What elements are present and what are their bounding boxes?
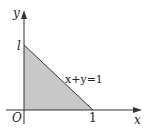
x-intercept-label: 1 bbox=[89, 111, 97, 125]
graph-figure: y x O l 1 x+y=1 bbox=[0, 0, 148, 131]
y-axis-label: y bbox=[12, 6, 20, 20]
y-axis-arrow-icon bbox=[21, 10, 27, 19]
x-axis-label: x bbox=[134, 113, 141, 127]
y-intercept-label: l bbox=[17, 39, 21, 53]
line-equation-label: x+y=1 bbox=[65, 73, 103, 86]
origin-label: O bbox=[12, 111, 22, 125]
